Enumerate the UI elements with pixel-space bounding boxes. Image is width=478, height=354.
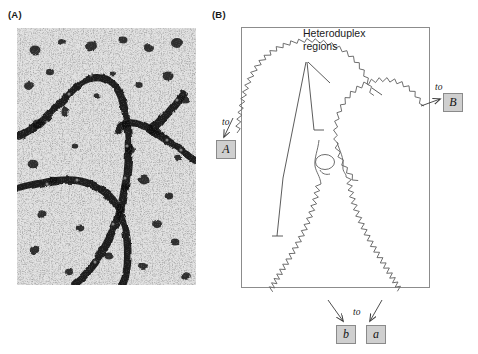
panel-a-label: (A) xyxy=(8,9,22,20)
panel-b-label: (B) xyxy=(212,9,226,20)
figure-root: (A) xyxy=(0,0,478,354)
to-label-bottom: to xyxy=(353,307,360,317)
arm-tag-a: a xyxy=(366,325,386,344)
electron-micrograph xyxy=(17,28,196,285)
arm-tag-B: B xyxy=(443,93,463,112)
micrograph-image xyxy=(17,28,196,285)
arm-tag-A: A xyxy=(216,140,236,159)
arm-tag-b: b xyxy=(336,325,356,344)
to-label-a: to xyxy=(222,117,229,127)
to-label-b: to xyxy=(435,82,442,92)
arrow-to-b xyxy=(328,300,343,321)
schematic-border-box xyxy=(241,27,430,288)
heteroduplex-regions-label: Heteroduplex regions xyxy=(303,27,395,52)
heteroduplex-label-line1: Heteroduplex xyxy=(303,27,395,40)
arrow-to-a xyxy=(370,300,382,321)
heteroduplex-label-line2: regions xyxy=(303,40,395,53)
